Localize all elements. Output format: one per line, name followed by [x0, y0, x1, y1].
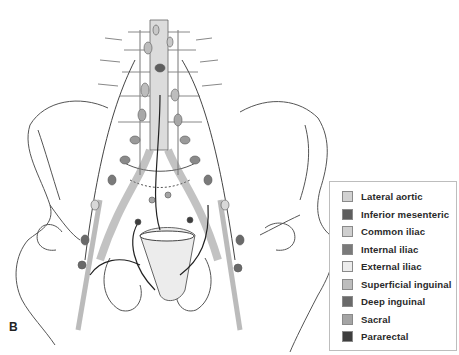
rectum [140, 228, 195, 301]
legend-item-deep-inguinal: Deep inguinal [342, 293, 456, 311]
swatch-common-iliac [342, 226, 353, 237]
right-iliac-bone [240, 102, 334, 352]
legend-item-sacral: Sacral [342, 311, 456, 329]
legend-item-lateral-aortic: Lateral aortic [342, 188, 456, 206]
swatch-pararectal [342, 331, 353, 342]
swatch-external-iliac [342, 261, 353, 272]
swatch-inferior-mesenteric [342, 209, 353, 220]
legend: Lateral aortic Inferior mesenteric Commo… [329, 181, 457, 351]
legend-item-pararectal: Pararectal [342, 328, 456, 346]
panel-label: B [9, 320, 18, 334]
swatch-superficial-inguinal [342, 279, 353, 290]
swatch-lateral-aortic [342, 191, 353, 202]
swatch-deep-inguinal [342, 296, 353, 307]
legend-item-common-iliac: Common iliac [342, 223, 456, 241]
legend-item-inferior-mesenteric: Inferior mesenteric [342, 206, 456, 224]
swatch-sacral [342, 314, 353, 325]
swatch-internal-iliac [342, 244, 353, 255]
legend-item-superficial-inguinal: Superficial inguinal [342, 276, 456, 294]
legend-item-external-iliac: External iliac [342, 258, 456, 276]
legend-item-internal-iliac: Internal iliac [342, 241, 456, 259]
